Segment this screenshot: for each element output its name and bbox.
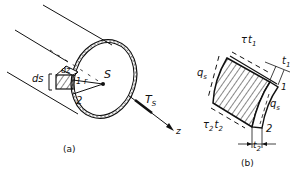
label-point-1: 1 — [76, 77, 81, 86]
diagram-canvas: ds dz r 1 S 2 TS z (a) τt1 t1 qs 1 qs — [0, 0, 297, 172]
element-hatched-face — [56, 75, 73, 89]
t1-ext-1 — [270, 66, 276, 80]
caption-b: (b) — [241, 158, 254, 168]
label-dz: dz — [61, 66, 71, 75]
figure-b: τt1 t1 qs 1 qs τ2t2 2 t2 (b) — [197, 34, 290, 168]
label-tau2-t2: τ2t2 — [203, 119, 223, 133]
t2-arrowhead-icon — [247, 142, 252, 146]
label-point-2: 2 — [266, 123, 272, 134]
tube-top-edge — [43, 5, 112, 45]
label-shear-centre: S — [104, 68, 111, 81]
caption-a: (a) — [63, 144, 76, 154]
shear-centre-dot — [101, 82, 105, 86]
label-torque: TS — [145, 93, 157, 108]
ds-bracket — [49, 74, 52, 90]
t2-arrowhead-icon — [262, 142, 267, 146]
z-arrowhead-icon — [166, 123, 174, 131]
label-t2: t2 — [253, 140, 262, 153]
label-point-1: 1 — [281, 82, 287, 92]
label-tau1-t1: τt1 — [241, 34, 256, 48]
figure-a: ds dz r 1 S 2 TS z (a) — [7, 5, 181, 154]
label-qs-right: qs — [270, 98, 280, 112]
label-t1: t1 — [282, 55, 290, 69]
label-z-axis: z — [175, 126, 181, 136]
label-qs-left: qs — [197, 67, 207, 81]
label-ds: ds — [32, 73, 44, 84]
label-point-2: 2 — [76, 95, 82, 106]
tube-middle-edge — [15, 30, 68, 62]
